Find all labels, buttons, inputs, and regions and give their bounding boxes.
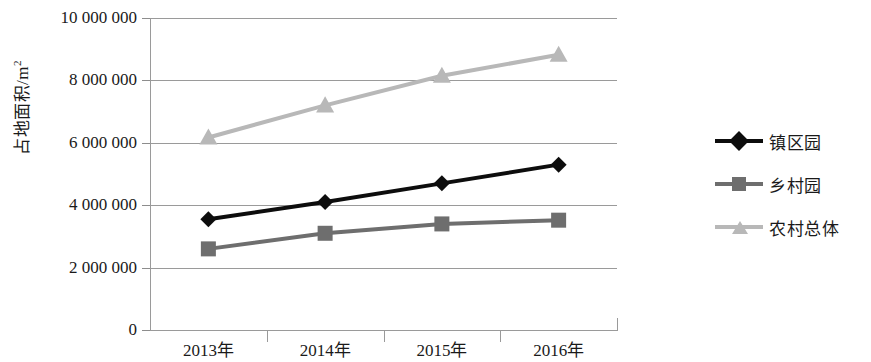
legend-diamond-icon bbox=[729, 131, 749, 151]
y-tick-label: 6 000 000 bbox=[69, 134, 137, 151]
y-tick-label: 10 000 000 bbox=[61, 9, 138, 26]
y-axis-title: 占地面积/m2 bbox=[8, 28, 33, 188]
data-point-marker bbox=[317, 194, 333, 210]
data-point-marker bbox=[318, 226, 333, 241]
legend-label: 农村总体 bbox=[763, 215, 839, 240]
series-line bbox=[208, 220, 558, 249]
legend-entry[interactable]: 镇区园 bbox=[715, 128, 822, 154]
legend-label: 镇区园 bbox=[763, 129, 822, 154]
legend-label: 乡村园 bbox=[763, 172, 822, 197]
x-tick-label: 2015年 bbox=[384, 336, 501, 361]
y-axis-title-text: 占地面积/m bbox=[13, 66, 32, 155]
series-layer bbox=[150, 18, 617, 330]
plot-area bbox=[150, 18, 617, 330]
x-axis-right-tick bbox=[617, 318, 618, 331]
y-tick-label: 8 000 000 bbox=[69, 71, 137, 88]
x-tick-label: 2014年 bbox=[267, 336, 384, 361]
legend-triangle-icon bbox=[732, 221, 748, 234]
legend-entry[interactable]: 农村总体 bbox=[715, 214, 839, 240]
series-line bbox=[208, 165, 558, 220]
series-1 bbox=[200, 157, 566, 228]
data-point-marker bbox=[551, 157, 567, 173]
data-point-marker bbox=[434, 216, 449, 231]
data-point-marker bbox=[550, 46, 568, 62]
data-point-marker bbox=[201, 241, 216, 256]
series-line bbox=[208, 55, 558, 138]
legend-square-icon bbox=[732, 177, 746, 191]
line-chart: 占地面积/m2 10 000 0008 000 0006 000 0004 00… bbox=[0, 0, 871, 362]
y-tick-label: 2 000 000 bbox=[69, 259, 137, 276]
x-tick-label: 2013年 bbox=[150, 336, 267, 361]
legend-entry[interactable]: 乡村园 bbox=[715, 171, 822, 197]
legend-marker-icon bbox=[715, 216, 763, 238]
legend-marker-icon bbox=[715, 173, 763, 195]
data-point-marker bbox=[551, 213, 566, 228]
series-2 bbox=[201, 213, 566, 257]
legend-marker-icon bbox=[715, 130, 763, 152]
y-tick-label: 4 000 000 bbox=[69, 196, 137, 213]
x-tick-label: 2016年 bbox=[500, 336, 617, 361]
y-tick-label: 0 bbox=[129, 321, 138, 338]
data-point-marker bbox=[200, 211, 216, 227]
data-point-marker bbox=[434, 175, 450, 191]
series-3 bbox=[199, 46, 567, 145]
y-axis-title-exponent: 2 bbox=[11, 60, 23, 66]
